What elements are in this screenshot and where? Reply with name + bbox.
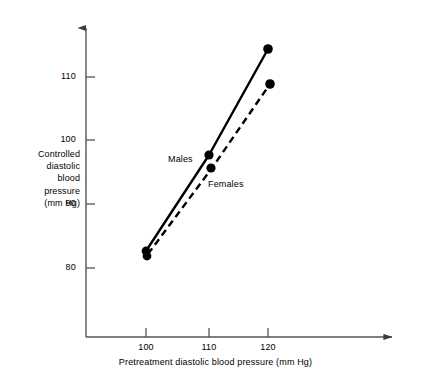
y-tick-label-110: 110 <box>46 72 76 81</box>
y-tick-label-100: 100 <box>46 135 76 144</box>
y-axis-title: Controlled diastolic blood pressure (mm … <box>8 148 80 209</box>
data-point-females-110 <box>206 163 215 172</box>
x-axis-title: Pretreatment diastolic blood pressure (m… <box>0 357 431 368</box>
data-point-females-120 <box>265 79 275 89</box>
x-axis-ticks <box>146 328 268 337</box>
x-tick-label-110: 110 <box>189 343 229 352</box>
y-axis-title-line-2: diastolic <box>8 160 80 172</box>
y-tick-label-80: 80 <box>46 263 76 272</box>
series-line-males <box>146 49 268 251</box>
x-tick-label-100: 100 <box>126 343 166 352</box>
data-point-males-120 <box>263 44 273 54</box>
y-axis-ticks <box>86 77 95 268</box>
series-label-males: Males <box>168 155 193 164</box>
y-axis-title-line-4: pressure <box>8 185 80 197</box>
data-point-males-110 <box>204 150 213 159</box>
series-label-females: Females <box>208 180 244 189</box>
x-tick-label-120: 120 <box>248 343 288 352</box>
data-point-females-100 <box>143 252 152 261</box>
y-axis-title-line-5: (mm Hg) <box>8 197 80 209</box>
chart-figure: 110 100 90 80 100 110 120 Controlled dia… <box>0 0 431 375</box>
y-axis-title-line-3: blood <box>8 172 80 184</box>
y-axis-title-line-1: Controlled <box>8 148 80 160</box>
